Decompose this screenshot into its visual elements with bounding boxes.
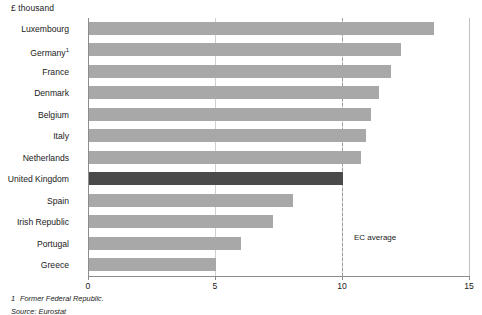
category-label-france: France xyxy=(0,62,69,82)
bar-row: Irish Republic xyxy=(89,212,470,232)
bar-portugal xyxy=(89,237,241,250)
bar-united-kingdom xyxy=(89,172,343,185)
bar-netherlands xyxy=(89,151,361,164)
bar-row: France xyxy=(89,62,470,82)
footnote-2: Source: Eurostat xyxy=(11,307,66,315)
footnote-1: 1Former Federal Republic. xyxy=(11,294,104,303)
bar-italy xyxy=(89,129,366,142)
category-label-greece: Greece xyxy=(0,255,69,275)
bar-row: Greece xyxy=(89,255,470,275)
bar-germany xyxy=(89,43,401,56)
x-axis-line xyxy=(88,276,469,277)
category-label-italy: Italy xyxy=(0,126,69,146)
tick-label-10: 10 xyxy=(337,281,347,291)
tick-mark-10 xyxy=(342,276,343,280)
category-label-irish-republic: Irish Republic xyxy=(0,212,69,232)
bar-row: United Kingdom xyxy=(89,169,470,189)
bar-luxembourg xyxy=(89,22,434,35)
bar-france xyxy=(89,65,391,78)
tick-mark-5 xyxy=(215,276,216,280)
tick-mark-15 xyxy=(469,276,470,280)
tick-label-0: 0 xyxy=(86,281,91,291)
bar-row: Denmark xyxy=(89,83,470,103)
units-label: £ thousand xyxy=(11,3,54,13)
bar-row: Italy xyxy=(89,126,470,146)
category-label-united-kingdom: United Kingdom xyxy=(0,169,69,189)
tick-mark-0 xyxy=(88,276,89,280)
footnote-2-text: Source: Eurostat xyxy=(11,307,66,315)
bar-row: Luxembourg xyxy=(89,19,470,39)
tick-label-5: 5 xyxy=(213,281,218,291)
footnote-marker-superscript: 1 xyxy=(66,47,69,53)
bar-row: Netherlands xyxy=(89,148,470,168)
bar-spain xyxy=(89,194,293,207)
plot-area: EC average LuxembourgGermany1FranceDenma… xyxy=(88,18,469,276)
category-label-germany: Germany1 xyxy=(0,40,69,60)
category-label-netherlands: Netherlands xyxy=(0,148,69,168)
bar-row: Belgium xyxy=(89,105,470,125)
chart-page: £ thousand EC average LuxembourgGermany1… xyxy=(0,0,482,315)
tick-label-15: 15 xyxy=(464,281,474,291)
footnote-1-marker: 1 xyxy=(11,294,20,303)
bar-denmark xyxy=(89,86,379,99)
category-label-luxembourg: Luxembourg xyxy=(0,19,69,39)
footnote-1-text: Former Federal Republic. xyxy=(20,294,104,303)
bar-irish-republic xyxy=(89,215,273,228)
bar-row: Portugal xyxy=(89,234,470,254)
category-label-portugal: Portugal xyxy=(0,234,69,254)
bar-belgium xyxy=(89,108,371,121)
bar-row: Spain xyxy=(89,191,470,211)
bar-row: Germany1 xyxy=(89,40,470,60)
category-label-denmark: Denmark xyxy=(0,83,69,103)
bar-greece xyxy=(89,258,216,271)
category-label-belgium: Belgium xyxy=(0,105,69,125)
category-label-spain: Spain xyxy=(0,191,69,211)
